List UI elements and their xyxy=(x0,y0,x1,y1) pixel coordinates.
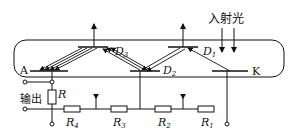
incident-light-label: 入射光 xyxy=(208,11,244,26)
resistor-r2-label: R2 xyxy=(157,116,171,130)
load-resistor-label: R xyxy=(57,88,66,101)
cathode-label: K xyxy=(252,65,261,78)
cathode-terminal xyxy=(225,122,229,126)
resistor-r3 xyxy=(111,106,127,112)
dynode-d3 xyxy=(78,24,108,47)
dynode-d1-label: D1 xyxy=(202,45,216,59)
dynode-d1 xyxy=(168,24,198,47)
anode-label: A xyxy=(19,64,29,77)
dynode-d2-label: D2 xyxy=(162,64,177,78)
output-label: 输出 xyxy=(20,92,42,106)
resistor-r1-label: R1 xyxy=(200,116,214,130)
load-resistor-r xyxy=(48,90,56,104)
resistor-r4 xyxy=(64,106,80,112)
resistor-r1 xyxy=(198,106,214,112)
dynode-d3-label: D3 xyxy=(114,45,129,59)
resistor-r2 xyxy=(155,106,171,112)
output-terminal-top xyxy=(23,80,27,84)
output-terminal-bottom xyxy=(23,107,27,111)
ground-terminal xyxy=(50,122,54,126)
resistor-r3-label: R3 xyxy=(112,116,126,130)
resistor-r4-label: R4 xyxy=(65,116,79,130)
photomultiplier-diagram: 入射光 A K D3 D1 D2 R 输出 R4 R3 R2 R1 xyxy=(0,0,298,135)
